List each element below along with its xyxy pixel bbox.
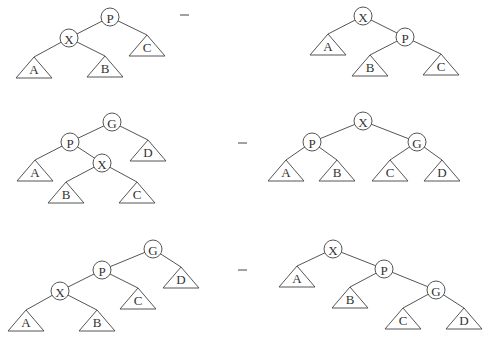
subtree-label: B <box>101 61 110 76</box>
subtree-b: B <box>332 287 368 308</box>
subtree-label: A <box>30 165 40 180</box>
tree-nodes: PXXPGPXXPGGPXXPG <box>51 7 445 300</box>
subtree-d: D <box>446 308 482 329</box>
subtree-a: A <box>310 34 346 55</box>
node-label: G <box>412 136 421 151</box>
node-p: P <box>396 28 414 46</box>
node-label: X <box>328 243 338 258</box>
node-x: X <box>354 7 372 25</box>
node-g: G <box>408 133 426 151</box>
node-label: X <box>358 10 368 25</box>
splay-rotation-diagram: ABCABCABCDABCDABCDABCD PXXPGPXXPGGPXXPG <box>0 0 487 347</box>
subtree-label: B <box>333 165 342 180</box>
subtree-label: C <box>133 187 142 202</box>
node-x: X <box>324 240 342 258</box>
node-label: P <box>66 136 73 151</box>
subtree-label: B <box>346 292 355 307</box>
subtree-c: C <box>119 182 155 203</box>
subtree-a: A <box>8 310 44 331</box>
subtree-label: A <box>323 39 333 54</box>
node-p: P <box>303 133 321 151</box>
subtree-b: B <box>319 160 355 181</box>
node-g: G <box>103 113 121 131</box>
subtree-label: C <box>134 293 143 308</box>
subtree-d: D <box>163 267 199 288</box>
subtree-label: C <box>399 313 408 328</box>
node-x: X <box>93 154 111 172</box>
node-x: X <box>51 282 69 300</box>
subtree-d: D <box>424 160 460 181</box>
subtree-label: A <box>21 315 31 330</box>
subtree-c: C <box>372 160 408 181</box>
node-label: P <box>308 136 315 151</box>
subtree-b: B <box>352 55 388 76</box>
node-p: P <box>93 261 111 279</box>
subtree-c: C <box>423 54 459 75</box>
subtree-label: A <box>281 165 291 180</box>
subtree-label: C <box>143 40 152 55</box>
subtree-label: B <box>366 60 375 75</box>
node-label: G <box>431 284 440 299</box>
node-x: X <box>60 29 78 47</box>
subtree-a: A <box>279 266 315 287</box>
subtree-label: B <box>62 187 71 202</box>
subtree-triangles: ABCABCABCDABCDABCDABCD <box>8 34 482 331</box>
node-p: P <box>61 133 79 151</box>
node-label: P <box>401 31 408 46</box>
subtree-a: A <box>16 57 52 78</box>
subtree-a: A <box>268 160 304 181</box>
subtree-label: D <box>143 145 152 160</box>
tree-edges <box>26 16 464 310</box>
subtree-c: C <box>129 35 165 56</box>
node-label: G <box>148 243 157 258</box>
subtree-label: D <box>437 165 446 180</box>
subtree-label: C <box>386 165 395 180</box>
transformation-arrows <box>180 15 247 270</box>
node-g: G <box>427 281 445 299</box>
node-label: X <box>64 32 74 47</box>
node-label: G <box>107 116 116 131</box>
subtree-b: B <box>79 310 115 331</box>
subtree-label: D <box>176 272 185 287</box>
subtree-c: C <box>385 308 421 329</box>
node-label: P <box>106 11 113 26</box>
node-label: P <box>98 264 105 279</box>
subtree-a: A <box>17 160 53 181</box>
subtree-b: B <box>48 182 84 203</box>
node-label: X <box>55 285 65 300</box>
subtree-c: C <box>120 288 156 309</box>
subtree-label: D <box>459 313 468 328</box>
subtree-label: A <box>29 62 39 77</box>
subtree-b: B <box>87 56 123 77</box>
node-x: X <box>354 112 372 130</box>
node-label: P <box>380 263 387 278</box>
node-label: X <box>97 157 107 172</box>
subtree-label: B <box>93 315 102 330</box>
node-p: P <box>101 8 119 26</box>
node-label: X <box>358 115 368 130</box>
subtree-label: C <box>437 59 446 74</box>
subtree-d: D <box>130 140 166 161</box>
node-g: G <box>144 240 162 258</box>
subtree-label: A <box>292 271 302 286</box>
node-p: P <box>375 260 393 278</box>
